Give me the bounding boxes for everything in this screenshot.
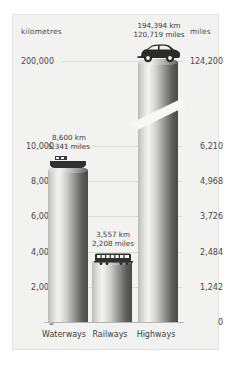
- bar-highways: [138, 62, 178, 323]
- plot-area: [44, 56, 182, 323]
- value-label-highways-km: 194,394 km: [137, 21, 180, 30]
- value-label-waterways-miles: 5,341 miles: [34, 143, 104, 152]
- axis-break-slash: [132, 98, 186, 131]
- y-tick-right-6: 0: [183, 318, 223, 327]
- y-tick-right-4: 2,484: [183, 248, 223, 257]
- train-icon: [94, 253, 134, 265]
- x-tick-highways: Highways: [128, 330, 184, 339]
- value-label-highways-miles: 120,719 miles: [122, 31, 196, 40]
- bar-railways: [92, 262, 132, 323]
- y-tick-right-5: 1,242: [183, 283, 223, 292]
- value-label-railways-miles: 2,208 miles: [78, 240, 148, 249]
- value-label-waterways-km: 8,600 km: [52, 133, 86, 142]
- value-label-railways-km: 3,557 km: [96, 230, 130, 239]
- y-tick-right-3: 3,726: [183, 212, 223, 221]
- y-tick-right-1: 6,210: [183, 142, 223, 151]
- y-tick-right-2: 4,968: [183, 177, 223, 186]
- value-label-highways: 194,394 km 120,719 miles: [122, 22, 196, 39]
- chart-figure: kilometres miles 200,000 10,000 8,000 6,…: [0, 0, 231, 365]
- car-icon: [135, 44, 181, 63]
- x-axis-baseline: [44, 322, 184, 323]
- y-tick-right-0: 124,200: [183, 57, 223, 66]
- value-label-railways: 3,557 km 2,208 miles: [78, 231, 148, 248]
- value-label-waterways: 8,600 km 5,341 miles: [34, 134, 104, 151]
- barge-icon: [50, 155, 86, 169]
- y-axis-left-title: kilometres: [21, 27, 62, 36]
